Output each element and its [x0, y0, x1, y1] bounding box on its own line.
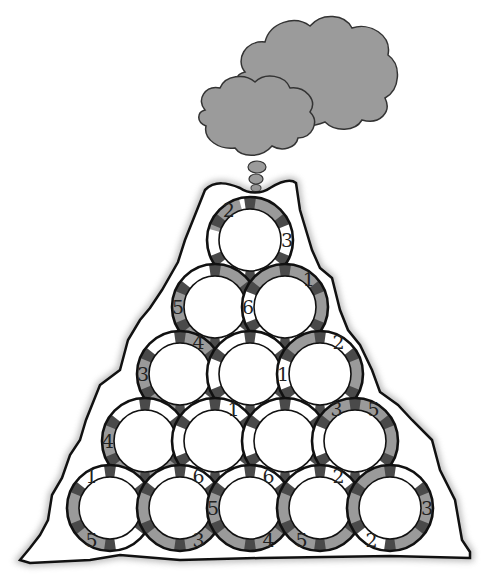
cell-number: 3: [192, 529, 204, 551]
ring-node-dark: [244, 539, 256, 551]
ring-node-dark: [314, 539, 326, 551]
cell-number: 1: [277, 363, 289, 385]
cell-number: 2: [365, 529, 377, 551]
cell-number: 6: [242, 296, 254, 318]
ring-node-dark: [314, 465, 326, 477]
ring-node-dark: [209, 398, 221, 410]
ring-node-dark: [384, 465, 396, 477]
cell-number: 6: [262, 465, 274, 487]
ring-node-dark: [174, 539, 186, 551]
cell-number: 3: [421, 497, 433, 519]
cell-number: 5: [207, 497, 219, 519]
cell-number: 4: [262, 529, 274, 551]
cell-number: 3: [281, 229, 293, 251]
cell-number: 6: [192, 465, 204, 487]
ring-node-dark: [139, 398, 151, 410]
cell-number: 3: [330, 398, 342, 420]
ring-node-dark: [314, 331, 326, 343]
cell-number: 1: [227, 398, 239, 420]
ring-node-dark: [209, 264, 221, 276]
cell-number: 2: [223, 199, 235, 221]
cell-number: 3: [137, 363, 149, 385]
ring-node-dark: [244, 331, 256, 343]
smoke-cloud-small: [199, 76, 315, 155]
smoke-puffs: [248, 161, 266, 192]
cell-number: 4: [102, 430, 114, 452]
cell-number: 5: [85, 529, 97, 551]
volcano-puzzle: 235163421413515635642532: [0, 0, 504, 583]
cell-number: 4: [192, 331, 204, 353]
ring-node-dark: [279, 398, 291, 410]
cell-number: 1: [303, 268, 315, 290]
ring-node-dark: [384, 539, 396, 551]
ring-node-dark: [174, 465, 186, 477]
cell-number: 2: [332, 465, 344, 487]
ring-node-dark: [104, 539, 116, 551]
cell-number: 1: [85, 465, 97, 487]
ring-node-dark: [279, 264, 291, 276]
cell-number: 2: [332, 331, 344, 353]
cell-number: 5: [295, 529, 307, 551]
ring-node-dark: [104, 465, 116, 477]
ring-node-dark: [244, 197, 256, 209]
cell-number: 5: [172, 296, 184, 318]
ring-node-dark: [349, 398, 361, 410]
cell-number: 5: [367, 398, 379, 420]
ring-node-dark: [174, 331, 186, 343]
ring-node-dark: [244, 465, 256, 477]
